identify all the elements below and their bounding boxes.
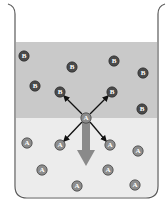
upper-liquid-layer — [16, 42, 157, 118]
particle-b: B — [107, 87, 117, 97]
particle-b: B — [67, 62, 77, 72]
particle-a-label: A — [57, 141, 62, 149]
particle-a: A — [55, 140, 65, 150]
particle-a-label: A — [105, 166, 110, 174]
particle-b: B — [109, 56, 119, 66]
particle-b-label: B — [22, 52, 27, 60]
particle-b: B — [30, 81, 40, 91]
central-particle-a: A — [81, 113, 91, 123]
particle-b: B — [137, 104, 147, 114]
particle-b-label: B — [140, 105, 145, 113]
particle-a: A — [105, 140, 115, 150]
particle-a: A — [103, 165, 113, 175]
particle-a-label: A — [24, 139, 29, 147]
central-particle-a-label: A — [83, 114, 88, 122]
particle-b-label: B — [33, 82, 38, 90]
particle-a-label: A — [107, 141, 112, 149]
beaker-diagram: BBBBBBBBAAAAAAAAA — [0, 0, 167, 209]
particle-b: B — [138, 68, 148, 78]
particle-a: A — [130, 180, 140, 190]
particle-b-label: B — [141, 69, 146, 77]
particle-a: A — [133, 146, 143, 156]
particle-a-label: A — [132, 181, 137, 189]
particle-a-label: A — [135, 147, 140, 155]
particle-b: B — [19, 51, 29, 61]
particle-a: A — [22, 138, 32, 148]
particle-b-label: B — [112, 57, 117, 65]
particle-b-label: B — [70, 63, 75, 71]
particle-a-label: A — [74, 182, 79, 190]
particle-b-label: B — [58, 88, 63, 96]
particle-b-label: B — [110, 88, 115, 96]
particle-a: A — [37, 165, 47, 175]
particle-a: A — [72, 181, 82, 191]
particle-a-label: A — [39, 166, 44, 174]
particle-b: B — [55, 87, 65, 97]
